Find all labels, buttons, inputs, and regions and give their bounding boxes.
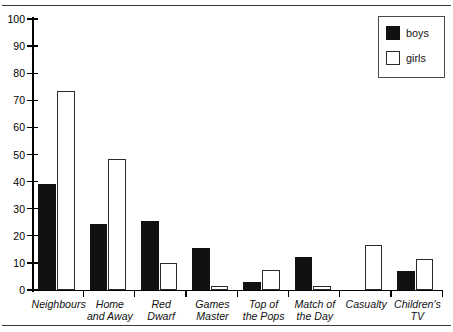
y-axis-tick-label: 50 [1,150,25,161]
bar-girls [365,245,383,290]
bar-boys [192,248,210,290]
legend-swatch-girls-icon [386,51,400,65]
x-axis-group-tick [442,290,443,297]
x-axis-category-label: Children's TV [386,298,449,323]
bar-girls [57,91,75,290]
page-rule-bottom [2,325,451,326]
bar-girls [262,270,280,290]
bar-boys [141,221,159,290]
y-axis-tick-label: 90 [1,41,25,52]
legend-label-boys: boys [406,28,429,39]
bar-boys [243,282,261,290]
bar-girls [160,263,178,290]
legend-swatch-boys-icon [386,26,400,40]
bar-girls [108,159,126,290]
y-axis-tick-label: 10 [1,258,25,269]
x-axis-group-tick [134,290,135,297]
x-axis-group-tick [339,290,340,297]
bar-chart-figure: 0102030405060708090100 boys girls Neighb… [0,0,453,332]
y-axis-tick-label: 60 [1,122,25,133]
bar-girls [211,286,229,290]
x-axis-group-tick [185,290,186,297]
legend-entry-boys: boys [386,26,429,40]
y-axis-tick-label: 0 [1,285,25,296]
x-axis-group-tick [83,290,84,297]
bar-girls [313,286,331,290]
legend-entry-girls: girls [386,51,426,65]
x-axis-group-tick [237,290,238,297]
x-axis-group-tick [288,290,289,297]
y-axis-tick-label: 30 [1,204,25,215]
y-axis-tick-label: 40 [1,177,25,188]
x-axis-group-tick [390,290,391,297]
bar-boys [90,224,108,290]
chart-legend: boys girls [378,16,445,78]
y-axis-tick-label: 100 [1,14,25,25]
y-axis-tick-label: 70 [1,95,25,106]
legend-label-girls: girls [406,53,426,64]
page-rule-top [2,5,451,6]
y-axis-tick-label: 80 [1,68,25,79]
bar-boys [38,184,56,290]
y-axis-tick-label: 20 [1,231,25,242]
bar-boys [397,271,415,290]
bar-boys [295,257,313,290]
bar-girls [416,259,434,290]
